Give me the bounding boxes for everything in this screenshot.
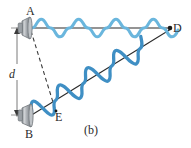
speaker-B-magnet	[18, 110, 22, 121]
point-marker-D	[168, 26, 173, 31]
speaker-B[interactable]	[18, 104, 33, 127]
speaker-A-rim	[28, 17, 32, 39]
physics-figure-two-speakers: A B D E d (b)	[0, 0, 191, 148]
label-point-D: D	[173, 22, 182, 34]
speaker-A-magnet	[18, 23, 22, 33]
label-point-A: A	[26, 5, 35, 17]
label-separation-d: d	[9, 68, 15, 80]
panel-label: (b)	[84, 124, 98, 136]
speaker-A[interactable]	[18, 17, 32, 39]
speaker-B-rim	[29, 104, 33, 127]
label-point-E: E	[55, 111, 62, 123]
ray-line-B-to-D	[30, 29, 171, 116]
label-point-B: B	[25, 128, 33, 140]
